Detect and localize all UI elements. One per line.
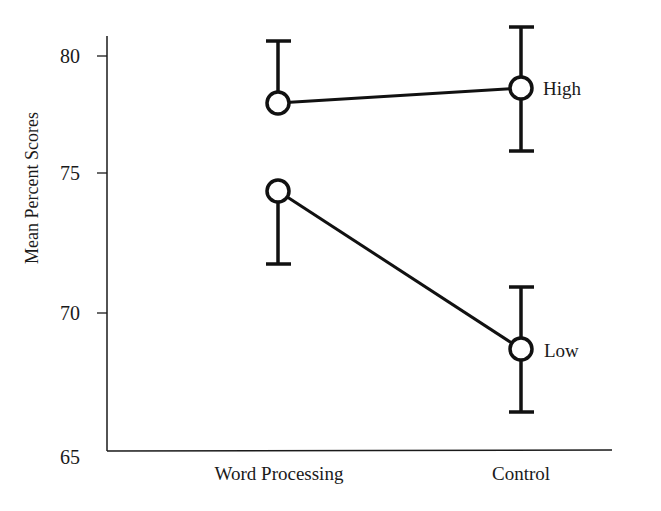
series-low-line	[278, 191, 521, 349]
interaction-line-chart: Mean Percent Scores 80 75 70 65 Word Pro…	[0, 0, 661, 511]
series-high-line	[278, 88, 521, 103]
x-category-word-processing: Word Processing	[215, 463, 344, 484]
marker-high-control	[510, 77, 532, 99]
y-axis-title: Mean Percent Scores	[22, 112, 42, 264]
y-tick-80: 80	[60, 45, 80, 67]
y-tick-65: 65	[60, 446, 80, 468]
marker-high-word-processing	[267, 92, 289, 114]
series-label-high: High	[543, 78, 582, 99]
x-axis-line	[107, 450, 612, 451]
series-label-low: Low	[544, 340, 579, 361]
y-tick-70: 70	[60, 302, 80, 324]
y-tick-75: 75	[60, 162, 80, 184]
marker-low-control	[510, 338, 532, 360]
marker-low-word-processing	[267, 180, 289, 202]
error-bars	[266, 27, 534, 412]
x-category-control: Control	[492, 463, 550, 484]
y-ticks: 80 75 70 65	[60, 45, 107, 468]
